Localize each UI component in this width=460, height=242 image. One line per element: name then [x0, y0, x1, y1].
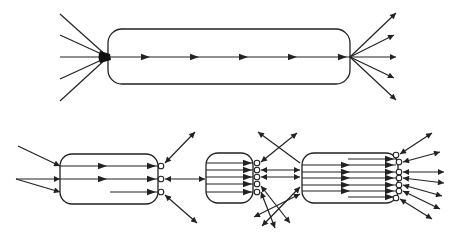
port-circle-icon	[158, 163, 164, 169]
arrowhead-icon	[239, 54, 248, 60]
bidirectional-arrow	[165, 195, 197, 223]
arrowhead-icon	[147, 189, 156, 195]
port-circle-icon	[396, 175, 402, 181]
port-circle-icon	[254, 167, 260, 173]
arrowhead-icon	[385, 175, 394, 181]
input-line	[60, 57, 108, 101]
port-circle-icon	[393, 195, 399, 201]
arrowhead-icon	[98, 163, 107, 169]
arrowhead-icon	[338, 54, 347, 60]
output-arrow	[350, 35, 394, 57]
arrowhead-icon	[341, 175, 350, 181]
input-arrow	[16, 179, 60, 192]
arrowhead-icon	[385, 188, 394, 194]
port-circle-icon	[254, 189, 260, 195]
stage-3-box-group	[302, 152, 402, 203]
arrowhead-icon	[341, 162, 350, 168]
bottom-diagram	[16, 132, 444, 228]
arrowhead-icon	[147, 163, 156, 169]
arrowhead-icon	[341, 169, 350, 175]
arrowhead-icon	[190, 54, 199, 60]
port-circle-icon	[158, 189, 164, 195]
arrowhead-icon	[243, 160, 252, 166]
bidirectional-arrow	[400, 199, 432, 219]
port-circle-icon	[396, 188, 402, 194]
port-circle-icon	[158, 176, 164, 182]
stage-1-box-group	[60, 154, 164, 204]
top-diagram	[60, 13, 396, 101]
arrowhead-icon	[98, 176, 107, 182]
stage-2-box-group	[206, 153, 260, 203]
bidirectional-arrow	[165, 132, 195, 163]
input-line	[60, 14, 108, 57]
input-arrow	[18, 146, 60, 166]
cross-arrow	[258, 132, 300, 163]
arrowhead-icon	[288, 54, 297, 60]
arrowhead-icon	[385, 194, 394, 200]
arrowhead-icon	[243, 181, 252, 187]
arrowhead-icon	[341, 182, 350, 188]
arrowhead-icon	[341, 188, 350, 194]
bidirectional-arrow	[403, 178, 444, 183]
arrowhead-icon	[147, 176, 156, 182]
arrowhead-icon	[385, 162, 394, 168]
port-circle-icon	[396, 182, 402, 188]
flow-diagram	[0, 0, 460, 242]
arrowhead-icon	[385, 156, 394, 162]
port-circle-icon	[254, 160, 260, 166]
port-circle-icon	[254, 174, 260, 180]
bidirectional-arrow	[400, 133, 432, 154]
bidirectional-arrow	[254, 194, 300, 217]
arrowhead-icon	[243, 189, 252, 195]
port-circle-icon	[396, 169, 402, 175]
output-arrow	[350, 13, 396, 57]
arrowhead-icon	[385, 169, 394, 175]
port-circle-icon	[396, 159, 402, 165]
output-arrow	[350, 57, 396, 100]
port-circle-icon	[393, 152, 399, 158]
output-arrow	[350, 57, 394, 78]
arrowhead-icon	[385, 182, 394, 188]
arrowhead-icon	[243, 167, 252, 173]
bidirectional-arrow	[262, 187, 300, 226]
port-circle-icon	[254, 181, 260, 187]
arrowhead-icon	[243, 174, 252, 180]
arrowhead-icon	[141, 54, 150, 60]
bidirectional-arrow	[403, 152, 440, 162]
